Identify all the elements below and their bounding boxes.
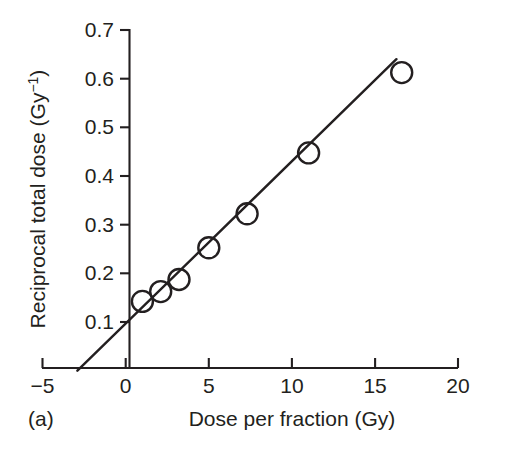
data-point-7 [391,62,412,83]
x-tick-label-15: 15 [363,374,386,397]
x-tick-label-5: 5 [203,374,215,397]
x-tick-label-0: 0 [120,374,132,397]
x-tick-label--5: −5 [31,374,55,397]
x-axis-tick-labels: −5 0 5 10 15 20 [31,374,470,397]
y-tick-label-0.2: 0.2 [85,261,114,284]
y-tick-label-0.1: 0.1 [85,310,114,333]
y-tick-label-0.5: 0.5 [85,115,114,138]
svg-text:Reciprocal total dose (Gy−1): Reciprocal total dose (Gy−1) [25,70,49,329]
data-points [132,62,412,312]
data-point-2 [150,281,171,302]
data-point-4 [198,237,219,258]
y-axis-title-exponent: −1 [25,76,41,92]
x-axis-ticks [43,358,459,368]
panel-label: (a) [28,407,54,430]
figure-panel-a: 0.7 0.6 0.5 0.4 0.3 0.2 0.1 −5 0 5 10 15… [0,0,512,451]
y-tick-label-0.4: 0.4 [85,164,115,187]
x-tick-label-10: 10 [280,374,303,397]
y-axis-title-close: ) [26,70,49,77]
y-axis-tick-labels: 0.7 0.6 0.5 0.4 0.3 0.2 0.1 [85,18,115,333]
y-axis-title: Reciprocal total dose (Gy−1) [25,70,49,329]
y-tick-label-0.6: 0.6 [85,67,114,90]
x-tick-label-20: 20 [446,374,469,397]
y-tick-label-0.7: 0.7 [85,18,114,41]
x-axis-title: Dose per fraction (Gy) [189,407,396,430]
y-axis-ticks [120,30,130,322]
reciprocal-total-dose-chart: 0.7 0.6 0.5 0.4 0.3 0.2 0.1 −5 0 5 10 15… [0,0,512,451]
y-tick-label-0.3: 0.3 [85,213,114,236]
y-axis-title-main: Reciprocal total dose (Gy [26,92,49,328]
